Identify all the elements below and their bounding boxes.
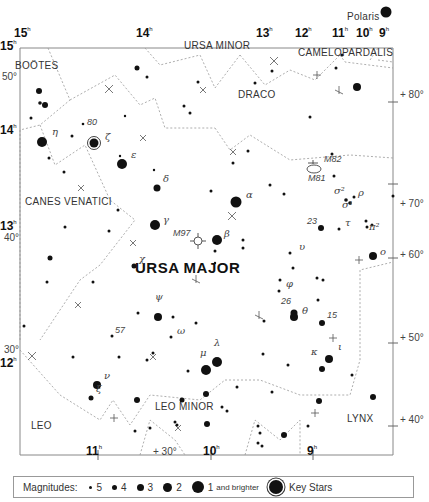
constellation-label: CANES VENATICI — [25, 197, 112, 207]
star-label: τ — [345, 218, 351, 228]
star-label: 80 — [87, 118, 97, 127]
legend-title: Magnitudes: — [23, 482, 77, 493]
star-label: κ — [311, 347, 318, 357]
star-label: ο — [380, 247, 386, 257]
dec-label: + 30° — [153, 447, 177, 457]
stars — [23, 7, 395, 448]
star-label: θ — [302, 306, 308, 316]
ra-label: 10h — [203, 445, 220, 457]
star-chart — [0, 0, 429, 502]
star-label: β — [224, 229, 230, 239]
dec-label: + 80° — [400, 90, 424, 100]
star-label: 57 — [115, 326, 125, 335]
star-mag1-icon — [192, 481, 204, 493]
dec-label: + 70° — [400, 199, 424, 209]
ra-label: 12h — [295, 27, 312, 39]
star-label: ψ — [155, 292, 163, 302]
m81-galaxy-icon — [307, 160, 321, 173]
star-label: 15 — [327, 311, 337, 320]
dec-label: 30° — [4, 345, 19, 355]
star-label: ζ — [105, 132, 110, 142]
constellation-label: LEO — [31, 421, 52, 431]
star-label: M82 — [324, 155, 342, 164]
star-label: M97 — [173, 229, 191, 238]
star-label: σ¹ — [342, 200, 353, 210]
star-label: η — [52, 127, 58, 137]
star-label: μ — [200, 348, 207, 358]
star-label: λ — [214, 338, 220, 348]
star-label: ξ — [96, 384, 102, 394]
legend-item-mag2: 2 — [163, 482, 182, 493]
constellation-title: URSA MAJOR — [135, 260, 240, 275]
ra-label: 11h — [86, 445, 102, 457]
m97-nebula-icon — [190, 233, 206, 249]
star-mag2-icon — [163, 483, 172, 492]
star-label: σ² — [334, 186, 345, 196]
star-mag5-icon — [89, 486, 92, 489]
ra-label: 14h — [136, 27, 153, 39]
ra-label: 12h — [0, 357, 17, 369]
dec-label: 40° — [4, 233, 19, 243]
ra-label: 9h — [307, 445, 317, 457]
legend-item-mag4: 4 — [112, 482, 127, 493]
legend-item-key-stars: Key Stars — [269, 480, 332, 494]
constellation-label: DRACO — [238, 90, 276, 100]
dec-label: + 40° — [400, 415, 424, 425]
star-label: ρ — [358, 188, 364, 198]
ra-label: 15h — [0, 40, 17, 52]
star-mag3-icon — [137, 484, 144, 491]
star-label: γ — [163, 215, 169, 225]
star-label: α — [246, 190, 253, 200]
constellation-label: URSA MINOR — [184, 41, 250, 51]
star-label: ω — [177, 326, 185, 336]
ra-label: 10h — [356, 27, 373, 39]
star-label: M81 — [308, 174, 326, 183]
dec-label: + 60° — [400, 250, 424, 260]
dec-label: 50° — [2, 72, 17, 82]
star-label: δ — [163, 174, 169, 184]
ra-label: 13h — [0, 220, 17, 232]
star-label: ι — [338, 342, 342, 352]
star-label: χ — [139, 254, 145, 264]
star-label: ν — [104, 371, 110, 381]
star-label: π² — [369, 222, 380, 232]
dec-label: + 50° — [400, 333, 424, 343]
ra-label: 9h — [379, 27, 389, 39]
star-label: ε — [131, 150, 136, 160]
constellation-label: BOÖTES — [15, 61, 58, 71]
ra-label: 14h — [0, 124, 17, 136]
magnitude-legend: Magnitudes: 5 4 3 2 1 and brighter Key S… — [13, 476, 414, 498]
star-label: 23 — [307, 217, 317, 226]
ra-label: 11h — [332, 27, 348, 39]
legend-item-mag3: 3 — [137, 482, 154, 493]
star-label: 26 — [281, 297, 291, 306]
constellation-label: LEO MINOR — [155, 402, 214, 412]
legend-item-mag1: 1 and brighter — [192, 481, 259, 493]
constellation-label: LYNX — [347, 414, 374, 424]
ra-label: 13h — [256, 27, 273, 39]
star-mag4-icon — [112, 485, 117, 490]
legend-item-mag5: 5 — [89, 482, 102, 493]
star-label: υ — [299, 242, 305, 252]
star-label: Polaris — [347, 12, 380, 22]
constellation-label: CAMELOPARDALIS — [298, 48, 393, 58]
key-star-icon — [269, 480, 283, 494]
star-label: φ — [286, 279, 293, 289]
ra-label: 15h — [14, 27, 31, 39]
